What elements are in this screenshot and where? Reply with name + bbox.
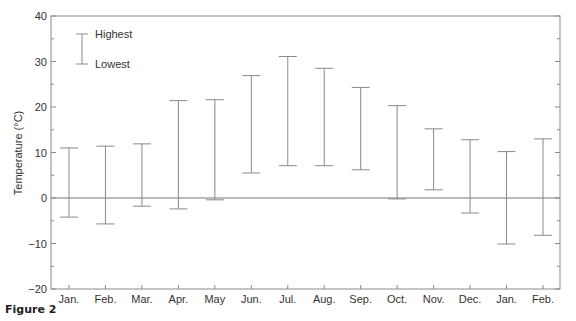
y-tick-label: 30 <box>35 56 47 68</box>
y-tick-label: −10 <box>28 238 47 250</box>
range-bar <box>206 100 224 200</box>
x-tick-label: Jan. <box>59 293 80 305</box>
range-bar <box>133 144 151 206</box>
y-tick-label: 10 <box>35 147 47 159</box>
x-tick-label: May <box>204 293 225 305</box>
range-bar <box>388 106 406 199</box>
x-tick-label: Feb. <box>94 293 116 305</box>
range-bar <box>534 139 552 235</box>
y-tick-label: 0 <box>41 192 47 204</box>
x-tick-label: Jan. <box>496 293 517 305</box>
range-bar <box>425 129 443 190</box>
x-tick-label: Sep. <box>349 293 372 305</box>
x-tick-label: Nov. <box>423 293 445 305</box>
y-tick-label: 20 <box>35 101 47 113</box>
range-bar <box>96 146 114 224</box>
x-axis: Jan.Feb.Mar.Apr.MayJun.Jul.Aug.Sep.Oct.N… <box>59 285 554 305</box>
figure-caption: Figure 2 <box>5 303 56 316</box>
x-tick-label: Feb. <box>532 293 554 305</box>
y-axis-title: Temperature (°C) <box>12 111 24 195</box>
y-tick-label: −20 <box>28 283 47 295</box>
y-axis: 403020100−10−20 <box>28 10 560 295</box>
temperature-range-chart: 403020100−10−20 Jan.Feb.Mar.Apr.MayJun.J… <box>0 0 576 321</box>
range-bars <box>60 56 552 243</box>
plot-border <box>51 16 560 289</box>
x-tick-label: Oct. <box>387 293 407 305</box>
x-tick-label: Apr. <box>169 293 189 305</box>
range-bar <box>169 101 187 209</box>
plot-frame <box>51 16 560 289</box>
x-tick-label: Jul. <box>279 293 296 305</box>
x-tick-label: Dec. <box>459 293 482 305</box>
range-bar <box>461 140 479 213</box>
x-tick-label: Jun. <box>241 293 262 305</box>
range-bar <box>352 87 370 169</box>
range-bar <box>279 56 297 165</box>
legend-label-lowest: Lowest <box>95 58 130 70</box>
range-bar <box>60 148 78 217</box>
range-bar <box>315 68 333 165</box>
y-tick-label: 40 <box>35 10 47 22</box>
range-bar <box>242 76 260 173</box>
x-tick-label: Mar. <box>131 293 152 305</box>
x-tick-label: Aug. <box>313 293 336 305</box>
legend: HighestLowest <box>76 28 132 70</box>
legend-label-highest: Highest <box>95 28 132 40</box>
